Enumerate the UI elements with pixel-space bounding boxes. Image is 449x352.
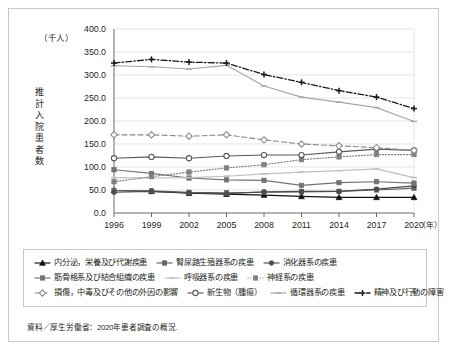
legend-marker-icon (164, 273, 181, 283)
chart-series (111, 146, 416, 160)
source-note: 資料／厚生労働省：2020年患者調査の概況. (27, 321, 178, 332)
data-point-marker (269, 260, 274, 265)
data-point-marker (336, 143, 342, 149)
data-point-marker (262, 178, 266, 182)
legend-item[interactable]: 神経系の疾患 (247, 273, 314, 283)
x-tick-label: 2008 (254, 220, 274, 230)
chart-legend: 内分泌，栄養及び代謝疾患腎尿路生殖器系の疾患消化器系の疾患筋骨格系及び結合組織の… (23, 249, 427, 307)
legend-row: 損傷，中毒及びその他の外因の影響新生物（腫瘍）循環器系の疾患精神及び行動の障害 (34, 285, 426, 300)
legend-item[interactable]: 呼吸器系の疾患 (164, 273, 238, 283)
legend-label: 内分泌，栄養及び代謝疾患 (54, 258, 147, 268)
chart-series (111, 56, 417, 111)
data-point-marker (223, 132, 229, 138)
data-point-marker (186, 156, 191, 161)
legend-label: 筋骨格系及び結合組織の疾患 (54, 273, 155, 283)
legend-item[interactable]: 消化器系の疾患 (263, 258, 337, 268)
data-point-marker (299, 189, 304, 194)
data-point-marker (148, 132, 154, 138)
x-axis-unit-label: （年） (418, 220, 440, 230)
legend-item[interactable]: 筋骨格系及び結合組織の疾患 (34, 273, 155, 283)
data-point-marker (337, 180, 341, 184)
legend-item[interactable]: 内分泌，栄養及び代謝疾患 (34, 258, 147, 268)
legend-item[interactable]: 損傷，中毒及びその他の外因の影響 (34, 288, 178, 298)
x-tick-label: 2011 (292, 220, 311, 230)
legend-item[interactable]: 精神及び行動の障害 (354, 288, 444, 298)
data-point-marker (299, 183, 303, 187)
y-tick-label: 50.0 (89, 185, 106, 195)
data-point-marker (187, 170, 191, 174)
chart-series (111, 169, 417, 178)
legend-label: 損傷，中毒及びその他の外因の影響 (54, 288, 178, 298)
data-point-marker (299, 79, 305, 85)
legend-marker-icon (34, 273, 51, 283)
y-tick-label: 250.0 (84, 93, 106, 103)
data-point-marker (262, 163, 266, 167)
data-point-marker (186, 133, 192, 139)
y-tick-label: 0.0 (94, 208, 106, 218)
legend-marker-icon (34, 258, 51, 268)
data-point-marker (411, 106, 417, 112)
chart-svg: 0.050.0100.0150.0200.0250.0300.0350.0400… (9, 13, 440, 245)
figure-container: （千人） 推計入院患者数 0.050.0100.0150.0200.0250.0… (8, 8, 439, 342)
data-point-marker (261, 152, 266, 157)
legend-label: 消化器系の疾患 (283, 258, 337, 268)
data-point-marker (262, 190, 267, 195)
x-tick-label: 1999 (142, 220, 162, 230)
legend-marker-icon (247, 273, 264, 283)
legend-label: 精神及び行動の障害 (374, 288, 444, 298)
data-point-marker (149, 154, 154, 159)
data-point-marker (193, 290, 198, 295)
chart-series (111, 132, 417, 154)
x-tick-label: 1996 (104, 220, 124, 230)
y-tick-label: 200.0 (84, 116, 106, 126)
data-point-marker (149, 189, 154, 194)
data-point-marker (40, 275, 44, 279)
data-point-marker (374, 94, 380, 100)
data-point-marker (187, 190, 192, 195)
legend-label: 呼吸器系の疾患 (184, 273, 238, 283)
data-point-marker (374, 152, 378, 156)
data-point-marker (39, 289, 45, 295)
data-point-marker (112, 180, 116, 184)
legend-item[interactable]: 腎尿路生殖器系の疾患 (156, 258, 254, 268)
y-tick-label: 400.0 (84, 24, 106, 34)
y-tick-label: 150.0 (84, 139, 106, 149)
data-point-marker (374, 187, 379, 192)
data-point-marker (337, 155, 341, 159)
data-point-marker (112, 168, 116, 172)
data-point-marker (412, 181, 416, 185)
line-chart-plot: 0.050.0100.0150.0200.0250.0300.0350.0400… (9, 13, 440, 245)
data-point-marker (336, 149, 341, 154)
x-tick-label: 2002 (179, 220, 199, 230)
data-point-marker (253, 275, 257, 279)
legend-marker-icon (270, 288, 287, 298)
legend-item[interactable]: 新生物（腫瘍） (187, 288, 261, 298)
x-tick-label: 2005 (217, 220, 237, 230)
legend-label: 循環器系の疾患 (290, 288, 344, 298)
data-point-marker (337, 189, 342, 194)
data-point-marker (261, 137, 267, 143)
legend-item[interactable]: 循環器系の疾患 (270, 288, 344, 298)
data-point-marker (374, 180, 378, 184)
legend-marker-icon (263, 258, 280, 268)
data-point-marker (224, 153, 229, 158)
legend-marker-icon (187, 288, 204, 298)
data-point-marker (224, 166, 228, 170)
data-point-marker (299, 152, 304, 157)
legend-row: 筋骨格系及び結合組織の疾患呼吸器系の疾患神経系の疾患 (34, 270, 426, 285)
y-tick-label: 100.0 (84, 162, 106, 172)
data-point-marker (186, 59, 192, 65)
legend-marker-icon (156, 258, 173, 268)
data-point-marker (359, 290, 365, 296)
data-point-marker (224, 191, 229, 196)
data-point-marker (112, 190, 117, 195)
data-point-marker (162, 260, 166, 264)
legend-marker-icon (34, 288, 51, 298)
legend-label: 神経系の疾患 (267, 273, 314, 283)
x-tick-label: 2014 (329, 220, 349, 230)
data-point-marker (298, 141, 304, 147)
x-tick-label: 2017 (367, 220, 387, 230)
data-point-marker (224, 178, 228, 182)
data-point-marker (111, 156, 116, 161)
data-point-marker (149, 174, 153, 178)
